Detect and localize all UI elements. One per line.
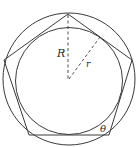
label-R: R bbox=[56, 47, 65, 60]
label-r: r bbox=[86, 59, 91, 69]
inradius-line bbox=[69, 37, 100, 79]
inscribed-circle bbox=[16, 28, 123, 135]
label-theta: θ bbox=[100, 123, 106, 134]
pentagon-circles-diagram: R r θ bbox=[0, 0, 140, 147]
